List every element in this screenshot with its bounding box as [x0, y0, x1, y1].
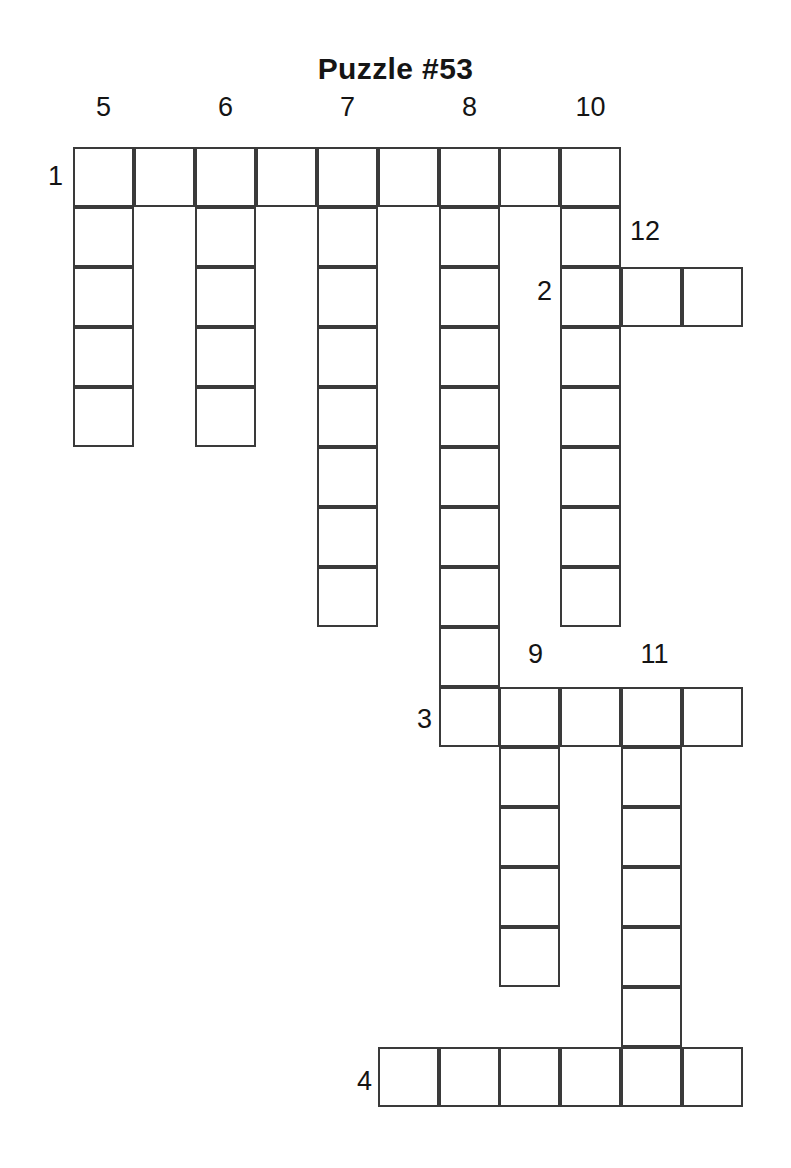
- clue-number: 4: [325, 1068, 372, 1095]
- crossword-cell[interactable]: [73, 147, 134, 207]
- clue-number: 1: [16, 163, 63, 190]
- crossword-cell[interactable]: [195, 267, 256, 327]
- clue-number: 9: [505, 641, 566, 668]
- crossword-cell[interactable]: [621, 927, 682, 987]
- crossword-cell[interactable]: [195, 327, 256, 387]
- crossword-cell[interactable]: [256, 147, 317, 207]
- crossword-cell[interactable]: [134, 147, 195, 207]
- crossword-cell[interactable]: [317, 327, 378, 387]
- clue-number: 7: [317, 94, 378, 121]
- crossword-cell[interactable]: [621, 1047, 682, 1107]
- crossword-cell[interactable]: [621, 987, 682, 1047]
- crossword-cell[interactable]: [73, 327, 134, 387]
- crossword-cell[interactable]: [317, 387, 378, 447]
- crossword-cell[interactable]: [499, 807, 560, 867]
- clue-number: 10: [560, 94, 621, 121]
- clue-number: 8: [439, 94, 500, 121]
- crossword-cell[interactable]: [439, 267, 500, 327]
- crossword-cell[interactable]: [621, 867, 682, 927]
- crossword-cell[interactable]: [682, 687, 743, 747]
- crossword-cell[interactable]: [439, 207, 500, 267]
- crossword-cell[interactable]: [439, 327, 500, 387]
- crossword-cell[interactable]: [378, 1047, 439, 1107]
- crossword-cell[interactable]: [317, 567, 378, 627]
- clue-number: 6: [195, 94, 256, 121]
- crossword-cell[interactable]: [621, 267, 682, 327]
- crossword-cell[interactable]: [317, 147, 378, 207]
- crossword-cell[interactable]: [560, 567, 621, 627]
- crossword-cell[interactable]: [439, 1047, 500, 1107]
- crossword-cell[interactable]: [499, 867, 560, 927]
- crossword-cell[interactable]: [682, 267, 743, 327]
- crossword-cell[interactable]: [560, 207, 621, 267]
- crossword-cell[interactable]: [439, 627, 500, 687]
- crossword-cell[interactable]: [621, 687, 682, 747]
- crossword-cell[interactable]: [499, 927, 560, 987]
- crossword-cell[interactable]: [682, 1047, 743, 1107]
- crossword-cell[interactable]: [195, 207, 256, 267]
- clue-number: 2: [505, 278, 552, 305]
- crossword-cell[interactable]: [560, 147, 621, 207]
- crossword-cell[interactable]: [439, 687, 500, 747]
- crossword-cell[interactable]: [621, 747, 682, 807]
- crossword-cell[interactable]: [73, 267, 134, 327]
- clue-number: 12: [630, 218, 677, 245]
- crossword-cell[interactable]: [560, 687, 621, 747]
- crossword-cell[interactable]: [73, 387, 134, 447]
- crossword-cell[interactable]: [560, 507, 621, 567]
- crossword-cell[interactable]: [195, 147, 256, 207]
- page-title: Puzzle #53: [0, 52, 791, 86]
- crossword-cell[interactable]: [621, 807, 682, 867]
- clue-number: 11: [624, 641, 685, 668]
- crossword-cell[interactable]: [499, 687, 560, 747]
- crossword-cell[interactable]: [499, 747, 560, 807]
- crossword-cell[interactable]: [439, 567, 500, 627]
- crossword-cell[interactable]: [560, 267, 621, 327]
- clue-number: 5: [73, 94, 134, 121]
- crossword-cell[interactable]: [499, 147, 560, 207]
- crossword-cell[interactable]: [317, 447, 378, 507]
- crossword-cell[interactable]: [499, 1047, 560, 1107]
- crossword-cell[interactable]: [439, 447, 500, 507]
- crossword-cell[interactable]: [317, 267, 378, 327]
- crossword-cell[interactable]: [439, 387, 500, 447]
- crossword-cell[interactable]: [378, 147, 439, 207]
- crossword-puzzle: Puzzle #53 567810112291134: [0, 0, 791, 1168]
- crossword-cell[interactable]: [560, 387, 621, 447]
- crossword-cell[interactable]: [317, 207, 378, 267]
- crossword-cell[interactable]: [317, 507, 378, 567]
- crossword-cell[interactable]: [560, 1047, 621, 1107]
- crossword-cell[interactable]: [195, 387, 256, 447]
- crossword-cell[interactable]: [560, 447, 621, 507]
- crossword-cell[interactable]: [439, 147, 500, 207]
- crossword-cell[interactable]: [439, 507, 500, 567]
- clue-number: 3: [385, 706, 432, 733]
- crossword-cell[interactable]: [560, 327, 621, 387]
- crossword-cell[interactable]: [73, 207, 134, 267]
